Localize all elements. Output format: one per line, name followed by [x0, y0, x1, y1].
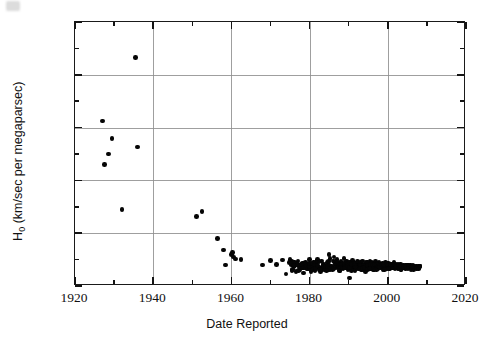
data-point [372, 268, 377, 273]
data-point [396, 266, 401, 271]
data-point [364, 264, 369, 269]
data-point [298, 267, 303, 272]
data-point [415, 266, 420, 271]
data-point [381, 262, 386, 267]
data-point [223, 263, 228, 268]
data-point [321, 263, 326, 268]
data-point [135, 145, 140, 150]
data-point [367, 266, 372, 271]
data-point [368, 264, 373, 269]
data-point [330, 264, 335, 269]
data-point [325, 264, 330, 269]
x-axis-title: Date Reported [0, 317, 494, 331]
data-point [390, 265, 395, 270]
data-point [410, 266, 415, 271]
data-point [306, 263, 311, 268]
data-point [303, 265, 308, 270]
data-point [376, 264, 381, 269]
data-point [408, 263, 413, 268]
data-point [373, 259, 378, 264]
x-axis-minor-tick [270, 280, 272, 284]
data-point [404, 265, 409, 270]
data-point [379, 265, 384, 270]
data-point [346, 263, 351, 268]
data-point [396, 264, 401, 269]
data-point [343, 266, 348, 271]
data-point [296, 268, 301, 273]
x-axis-tick-label: 2020 [452, 290, 479, 306]
y-axis-major-tick [75, 74, 82, 76]
data-point [394, 265, 399, 270]
y-axis-minor-tick [460, 206, 464, 208]
data-point [393, 267, 398, 272]
data-point [396, 264, 401, 269]
data-point [260, 263, 265, 268]
data-point [321, 263, 326, 268]
data-point [373, 264, 378, 269]
data-point [371, 267, 376, 272]
data-point [290, 260, 295, 265]
data-point [361, 265, 366, 270]
data-point [404, 263, 409, 268]
data-point [337, 268, 342, 273]
data-point [357, 264, 362, 269]
data-point [411, 267, 416, 272]
data-point [352, 263, 357, 268]
data-point [307, 261, 312, 266]
data-point [289, 263, 294, 268]
data-point [377, 260, 382, 265]
data-point [382, 267, 387, 272]
data-point [301, 266, 306, 271]
data-point [312, 263, 317, 268]
data-point [411, 264, 416, 269]
data-point [362, 262, 367, 267]
data-point [386, 261, 391, 266]
x-axis-minor-tick [113, 280, 115, 284]
y-axis-minor-tick [460, 48, 464, 50]
x-axis-major-tick [465, 22, 467, 29]
data-point [298, 264, 303, 269]
data-point [381, 262, 386, 267]
data-point [407, 264, 412, 269]
x-axis-major-tick [231, 22, 233, 29]
data-point [344, 266, 349, 271]
data-point [383, 260, 388, 265]
data-point [415, 265, 420, 270]
data-point [361, 265, 366, 270]
data-point [406, 265, 411, 270]
x-axis-tick-label: 1920 [61, 290, 88, 306]
data-point [332, 255, 337, 260]
data-point [388, 262, 393, 267]
data-point [417, 265, 422, 270]
data-point [358, 260, 363, 265]
data-point [394, 262, 399, 267]
data-point [418, 264, 423, 269]
data-point [323, 265, 328, 270]
data-point [365, 267, 370, 272]
data-point [368, 266, 373, 271]
data-point [388, 263, 393, 268]
data-point [375, 261, 380, 266]
data-point [353, 265, 358, 270]
data-point [404, 263, 409, 268]
data-point [374, 267, 379, 272]
data-point [365, 265, 370, 270]
data-point [375, 263, 380, 268]
y-axis-minor-tick [75, 153, 79, 155]
data-point [360, 263, 365, 268]
data-point [342, 256, 347, 261]
data-point [310, 267, 315, 272]
data-point [363, 266, 368, 271]
data-point [295, 263, 300, 268]
data-point [409, 265, 414, 270]
data-point [368, 266, 373, 271]
data-point [337, 268, 342, 273]
x-axis-major-tick [387, 22, 389, 29]
data-point [350, 267, 355, 272]
data-point [379, 263, 384, 268]
y-axis-minor-tick [75, 259, 79, 261]
data-point [329, 264, 334, 269]
data-point [303, 262, 308, 267]
data-point [400, 266, 405, 271]
data-point [384, 267, 389, 272]
